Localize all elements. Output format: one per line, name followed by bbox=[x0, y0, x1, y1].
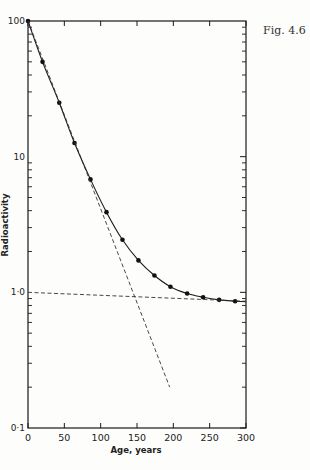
y-tick-label: 0·1 bbox=[11, 423, 25, 433]
data-point bbox=[168, 284, 173, 289]
y-tick-label: 100 bbox=[8, 16, 25, 26]
y-axis-title: Radioactivity bbox=[0, 193, 10, 256]
dashed-extrapolation-line bbox=[28, 21, 170, 387]
axis-ticks bbox=[28, 21, 246, 428]
data-point bbox=[185, 291, 190, 296]
data-point bbox=[120, 237, 125, 242]
tick-labels: 0501001502002503000·11·010100 bbox=[8, 16, 255, 443]
data-point bbox=[136, 258, 141, 263]
data-series bbox=[26, 19, 246, 387]
plot-frame bbox=[28, 21, 246, 428]
x-axis-title: Age, years bbox=[111, 445, 162, 455]
x-tick-label: 0 bbox=[25, 432, 31, 443]
x-tick-label: 250 bbox=[201, 432, 219, 443]
dashed-extrapolation-line bbox=[28, 292, 246, 301]
plot-border bbox=[28, 21, 246, 428]
data-point bbox=[201, 295, 206, 300]
data-point bbox=[152, 273, 157, 278]
x-tick-label: 300 bbox=[237, 432, 255, 443]
x-tick-label: 100 bbox=[92, 432, 110, 443]
data-point bbox=[104, 210, 109, 215]
y-tick-label: 10 bbox=[14, 152, 26, 162]
x-tick-label: 50 bbox=[58, 432, 70, 443]
x-tick-label: 150 bbox=[128, 432, 146, 443]
radioactivity-chart: 0501001502002503000·11·010100 Age, years… bbox=[0, 0, 310, 470]
x-tick-label: 200 bbox=[164, 432, 182, 443]
y-tick-label: 1·0 bbox=[11, 287, 26, 297]
data-point bbox=[40, 60, 45, 65]
